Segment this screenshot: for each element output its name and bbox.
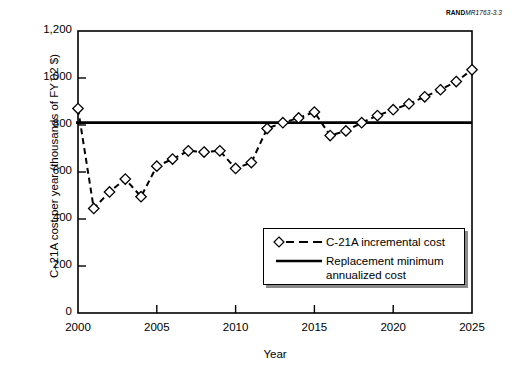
x-tick-label: 2005 xyxy=(127,321,187,333)
x-tick-label: 2020 xyxy=(363,321,423,333)
legend-label-replacement-cost-line2: annualized cost xyxy=(326,268,444,282)
y-tick-label: 0 xyxy=(22,305,72,317)
legend-label-replacement-cost-line1: Replacement minimum xyxy=(326,254,444,268)
chart-legend: C-21A incremental cost Replacement minim… xyxy=(263,228,465,285)
legend-entry-replacement-cost: Replacement minimum annualized cost xyxy=(272,254,444,282)
legend-label-incremental-cost: C-21A incremental cost xyxy=(326,235,445,249)
x-axis-title: Year xyxy=(78,348,472,360)
x-tick-label: 2010 xyxy=(206,321,266,333)
legend-marker-diamond-dashed xyxy=(272,235,326,249)
y-tick-label: 200 xyxy=(22,258,72,270)
legend-label-replacement-cost: Replacement minimum annualized cost xyxy=(326,254,444,282)
y-tick-label: 1,200 xyxy=(22,23,72,35)
chart-figure: RANDMR1763-3.3 C–21A cost per year (thou… xyxy=(0,0,513,374)
x-tick-label: 2025 xyxy=(442,321,502,333)
y-tick-label: 1,000 xyxy=(22,70,72,82)
legend-entry-incremental-cost: C-21A incremental cost xyxy=(272,235,445,249)
y-tick-label: 800 xyxy=(22,117,72,129)
y-tick-label: 600 xyxy=(22,164,72,176)
plot-area xyxy=(0,0,513,374)
legend-marker-solid-line xyxy=(272,254,326,268)
x-tick-label: 2015 xyxy=(284,321,344,333)
x-tick-label: 2000 xyxy=(48,321,108,333)
y-tick-label: 400 xyxy=(22,211,72,223)
